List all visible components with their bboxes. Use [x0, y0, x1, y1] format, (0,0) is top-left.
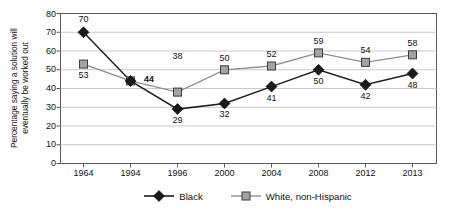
data-label-black-2000: 32: [212, 109, 238, 119]
data-label-black-2008: 50: [306, 76, 332, 86]
x-tick-label-2000: 2000: [203, 168, 247, 178]
marker-white-1964: [80, 60, 88, 68]
data-label-black-1996: 29: [165, 115, 191, 125]
x-tick-label-1996: 1996: [156, 168, 200, 178]
x-tick-label-2004: 2004: [250, 168, 294, 178]
x-tick-label-2008: 2008: [297, 168, 341, 178]
legend-item-black[interactable]: Black: [144, 190, 202, 202]
chart-legend: Black White, non-Hispanic: [60, 186, 436, 206]
data-label-white-2013: 58: [400, 38, 426, 48]
data-label-black-2004: 41: [259, 93, 285, 103]
legend-label-white-non-hispanic: White, non-Hispanic: [266, 191, 352, 202]
chart-figure: Percentage saying a solution will eventu…: [0, 0, 449, 219]
x-tick-label-2013: 2013: [391, 168, 435, 178]
x-axis-ticks: [84, 164, 413, 168]
data-label-black-1964: 70: [71, 14, 97, 24]
data-label-white-2008: 59: [306, 36, 332, 46]
data-label-white-1964: 53: [71, 70, 97, 80]
marker-white-2008: [315, 49, 323, 57]
data-label-black-2012: 42: [353, 91, 379, 101]
marker-white-2000: [221, 66, 229, 74]
marker-white-2013: [409, 51, 417, 59]
legend-label-black: Black: [179, 191, 202, 202]
marker-white-2012: [362, 58, 370, 66]
gray-square-key-icon: [231, 190, 261, 202]
legend-item-white-non-hispanic[interactable]: White, non-Hispanic: [231, 190, 352, 202]
data-label-white-1996: 38: [165, 51, 191, 61]
black-diamond-key-icon: [144, 190, 174, 202]
data-label-white-2012: 54: [353, 45, 379, 55]
x-tick-label-1964: 1964: [62, 168, 106, 178]
y-axis-ticks: [57, 14, 61, 164]
x-tick-label-1994: 1994: [109, 168, 153, 178]
data-label-white-1994: 44: [136, 74, 162, 84]
data-label-white-2000: 50: [212, 53, 238, 63]
x-tick-label-2012: 2012: [344, 168, 388, 178]
data-label-black-2013: 48: [400, 80, 426, 90]
data-label-white-2004: 52: [259, 49, 285, 59]
marker-white-1996: [174, 88, 182, 96]
marker-white-2004: [268, 62, 276, 70]
